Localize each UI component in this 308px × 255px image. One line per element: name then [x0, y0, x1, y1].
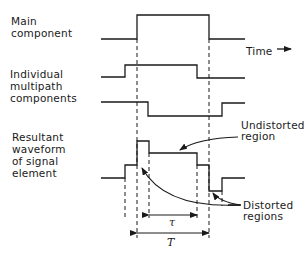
- main-component-waveform: [101, 15, 245, 39]
- distorted-regions-label: Distorted regions: [243, 200, 293, 222]
- distorted-region-leader-arrow-1: [142, 168, 240, 205]
- time-axis-label: Time: [246, 45, 273, 57]
- dashed-guide-lines: [125, 39, 222, 238]
- multipath-component-1-waveform: [101, 65, 245, 78]
- resultant-waveform: [101, 141, 245, 191]
- tau-symbol: τ: [169, 216, 175, 229]
- distorted-region-leader-arrow-2: [213, 193, 240, 205]
- resultant-waveform-label: Resultant waveform of signal element: [12, 131, 66, 179]
- multipath-component-2-waveform: [101, 102, 245, 116]
- main-component-label: Main component: [11, 15, 72, 39]
- multipath-components-label: Individual multipath components: [10, 68, 77, 104]
- undistorted-region-label: Undistorted region: [241, 120, 305, 142]
- T-symbol: T: [167, 236, 174, 249]
